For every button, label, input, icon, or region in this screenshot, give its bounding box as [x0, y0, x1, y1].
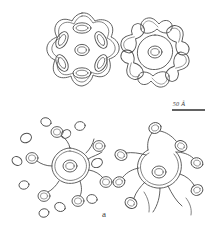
scale-bar-label: 50 Å	[173, 100, 185, 107]
filament	[123, 168, 139, 177]
panel-bottom-right	[112, 121, 205, 215]
terminal-loop-inner	[151, 124, 160, 132]
central-ring-outer	[152, 166, 166, 178]
filament	[186, 198, 191, 215]
subunit-group	[53, 23, 110, 78]
free-subunit	[60, 128, 73, 140]
filament	[144, 192, 149, 212]
terminal-loop-inner	[53, 129, 60, 135]
terminal-loop	[93, 141, 105, 152]
panel-bottom-left	[10, 117, 112, 219]
terminal-loop	[112, 175, 127, 189]
central-ring-inner	[151, 49, 159, 56]
terminal-loop	[147, 121, 162, 135]
central-ring-inner	[66, 163, 74, 170]
central-ring-outer	[63, 160, 77, 172]
filament	[148, 133, 152, 150]
free-subunit	[10, 155, 23, 167]
central-ring-outer	[148, 46, 162, 58]
terminal-loop	[26, 153, 38, 164]
star-outer-contour-inner	[52, 16, 115, 82]
free-subunit	[19, 132, 33, 145]
free-subunit	[38, 208, 50, 219]
filament	[180, 174, 194, 185]
subunit-group	[116, 18, 193, 87]
hexagon-core	[137, 35, 172, 70]
subunit-kidney	[163, 50, 192, 85]
terminal-loop	[38, 191, 50, 202]
panel-label-a: a	[102, 209, 106, 219]
terminal-loop-inner	[193, 159, 201, 167]
particle-figure: 50 Å	[0, 0, 215, 234]
open-arc-core-inner	[140, 153, 178, 185]
subunit-kidney	[141, 18, 173, 33]
free-subunit	[53, 201, 66, 213]
terminal-loop	[72, 196, 84, 207]
free-subunit	[40, 117, 52, 128]
terminal-loop-inner	[115, 178, 123, 186]
terminal-loop	[189, 183, 204, 197]
free-subunit	[90, 157, 104, 170]
terminal-loop-inner	[95, 143, 102, 149]
filament	[153, 188, 160, 212]
terminal-loop-inner	[102, 179, 109, 185]
terminal-loop	[123, 195, 139, 210]
subunit-oval	[92, 30, 110, 51]
star-outer-contour	[47, 13, 119, 86]
free-subunit	[18, 180, 29, 190]
terminal-loop-inner	[28, 155, 35, 161]
terminal-loop-inner	[40, 193, 47, 199]
terminal-loop	[100, 177, 112, 188]
terminal-loop	[190, 156, 205, 170]
arm-filament	[48, 181, 59, 192]
terminal-loop-inner	[117, 151, 126, 159]
core-contour-inner	[55, 151, 87, 180]
panel-top-left	[47, 13, 119, 86]
subunit-oval	[73, 23, 91, 33]
figure-canvas: 50 Å	[0, 0, 215, 234]
terminal-loop-inner	[176, 142, 185, 151]
subunit-oval	[73, 68, 91, 78]
filament-group	[112, 121, 205, 215]
subunit-kidney	[118, 20, 147, 55]
subunit-kidney	[138, 72, 170, 87]
terminal-loop	[113, 148, 128, 162]
filament	[160, 131, 176, 141]
arm-filament	[80, 181, 82, 196]
central-ring-inner	[155, 169, 163, 176]
core-contour	[52, 148, 90, 183]
central-ring-inner	[78, 47, 87, 53]
filament	[168, 186, 182, 206]
free-subunit	[86, 194, 98, 204]
terminal-loop-inner	[126, 199, 135, 208]
scale-bar: 50 Å	[172, 100, 205, 110]
arm-filament	[88, 152, 102, 159]
terminal-loop-inner	[74, 198, 81, 204]
terminal-loop-inner	[193, 186, 202, 194]
panel-top-right	[116, 18, 193, 87]
filament	[134, 182, 145, 198]
arm-filament	[37, 161, 52, 166]
subunit-oval	[53, 30, 71, 51]
free-subunit-group	[10, 117, 104, 219]
central-ring-outer	[75, 44, 89, 55]
free-subunit	[74, 121, 86, 131]
arm-filament	[89, 170, 103, 178]
